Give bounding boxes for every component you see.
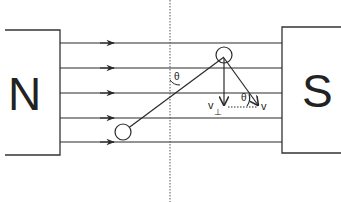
north-label: N: [8, 68, 41, 120]
v-perp-subscript: ⊥: [214, 107, 222, 117]
north-magnet: N: [5, 30, 60, 155]
south-magnet: S: [282, 27, 341, 153]
lower-mass: [115, 124, 131, 140]
south-label: S: [302, 65, 333, 117]
velocity-angle-arc: [247, 94, 250, 106]
v-label: v: [261, 100, 267, 112]
rod-angle-label: θ: [174, 71, 180, 82]
magnetic-field-rod-diagram: N S θ θ v ⊥ v: [0, 0, 341, 202]
velocity-angle-label: θ: [241, 92, 247, 103]
